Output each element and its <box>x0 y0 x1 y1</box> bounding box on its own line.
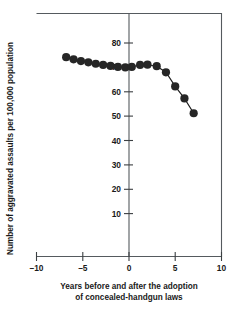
data-point <box>69 55 77 63</box>
y-tick-label-80: 80 <box>112 38 122 48</box>
chart-page: 80 70 60 50 40 30 20 10 –10 –5 0 5 10 <box>0 0 242 313</box>
data-point <box>77 57 85 65</box>
x-tick-label-0: 0 <box>127 263 132 273</box>
data-point <box>190 109 198 117</box>
data-point <box>143 61 151 69</box>
data-point <box>92 60 100 68</box>
y-tick-label-40: 40 <box>112 136 122 146</box>
data-point <box>99 61 107 69</box>
data-point <box>114 63 122 71</box>
x-tick-label-minus10: –10 <box>30 263 44 273</box>
x-axis-title-line1: Years before and after the adoption <box>60 282 197 291</box>
data-point <box>171 82 179 90</box>
data-point <box>62 53 70 61</box>
assaults-line-chart: 80 70 60 50 40 30 20 10 –10 –5 0 5 10 <box>0 0 242 313</box>
x-tick-label-minus5: –5 <box>78 263 88 273</box>
data-point <box>128 63 136 71</box>
y-tick-label-60: 60 <box>112 87 122 97</box>
y-tick-label-50: 50 <box>112 111 122 121</box>
x-axis-title-line2: of concealed-handgun laws <box>75 293 183 302</box>
data-point <box>180 94 188 102</box>
data-point <box>153 62 161 70</box>
y-tick-label-10: 10 <box>112 209 122 219</box>
y-tick-label-30: 30 <box>112 160 122 170</box>
data-point <box>106 62 114 70</box>
data-point <box>84 58 92 66</box>
x-tick-label-5: 5 <box>173 263 178 273</box>
data-point <box>136 61 144 69</box>
x-tick-label-10: 10 <box>217 263 227 273</box>
y-axis-title: Number of aggravated assaults per 100,00… <box>6 42 15 255</box>
data-point <box>162 68 170 76</box>
y-tick-label-20: 20 <box>112 184 122 194</box>
